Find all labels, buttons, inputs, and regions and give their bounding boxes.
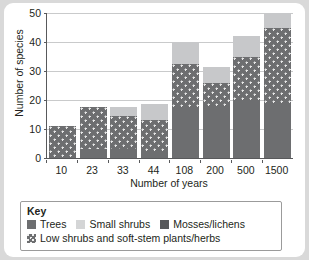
legend-row-secondary: Low shrubs and soft-stem plants/herbs [27, 232, 275, 246]
y-axis-tick-labels: 01020304050 [22, 13, 44, 161]
legend-title: Key [27, 205, 275, 218]
bar-segment-low-shrubs[interactable] [110, 116, 137, 149]
bar-segment-small-shrubs[interactable] [110, 107, 137, 116]
trees-swatch-icon [27, 220, 36, 229]
bar-segment-trees[interactable] [172, 107, 199, 158]
bar-group [47, 13, 293, 158]
bar-column[interactable] [203, 13, 230, 158]
x-axis-tick-label: 44 [140, 160, 167, 176]
bar-segment-low-shrubs[interactable] [80, 107, 107, 149]
bar-segment-low-shrubs[interactable] [203, 83, 230, 108]
bar-segment-small-shrubs[interactable] [172, 42, 199, 64]
bar-segment-low-shrubs[interactable] [233, 57, 260, 101]
legend-item-mosses-lichens: Mosses/lichens [160, 218, 245, 232]
plot-area [46, 13, 293, 159]
low-shrubs-swatch-icon [27, 234, 36, 243]
legend-label-trees: Trees [40, 218, 66, 232]
legend: Key Trees Small shrubs Mosses/lichens Lo… [20, 201, 282, 251]
bar-segment-trees[interactable] [141, 152, 168, 158]
x-axis-tick-mark [139, 160, 140, 163]
y-axis-tick-label: 30 [29, 66, 41, 77]
bar-segment-low-shrubs[interactable] [264, 28, 291, 103]
bar-segment-small-shrubs[interactable] [264, 13, 291, 28]
x-axis-title: Number of years [46, 177, 292, 189]
bar-segment-trees[interactable] [203, 107, 230, 158]
bar-column[interactable] [110, 13, 137, 158]
legend-label-small-shrubs: Small shrubs [89, 218, 150, 232]
x-axis-tick-mark [200, 160, 201, 163]
y-axis-tick-label: 20 [29, 95, 41, 106]
x-axis-tick-label: 10 [48, 160, 75, 176]
x-axis-tick-mark [262, 160, 263, 163]
bar-segment-small-shrubs[interactable] [141, 104, 168, 120]
x-axis-tick-labels: 102333441082005001500 [46, 160, 292, 176]
bar-column[interactable] [80, 13, 107, 158]
bar-segment-low-shrubs[interactable] [172, 64, 199, 108]
bar-column[interactable] [172, 13, 199, 158]
y-axis-tick-label: 40 [29, 37, 41, 48]
legend-item-low-shrubs: Low shrubs and soft-stem plants/herbs [27, 232, 220, 246]
bar-segment-low-shrubs[interactable] [49, 126, 76, 158]
y-axis-tick-label: 50 [29, 8, 41, 19]
chart-card: Number of species 01020304050 1023334410… [4, 3, 305, 257]
bar-column[interactable] [233, 13, 260, 158]
bar-column[interactable] [49, 13, 76, 158]
legend-label-low-shrubs: Low shrubs and soft-stem plants/herbs [40, 232, 220, 246]
x-axis-tick-mark [77, 160, 78, 163]
bar-segment-trees[interactable] [264, 103, 291, 158]
x-axis-tick-mark [169, 160, 170, 163]
bar-segment-low-shrubs[interactable] [141, 120, 168, 152]
legend-item-trees: Trees [27, 218, 66, 232]
mosses-lichens-swatch-icon [160, 220, 169, 229]
y-axis-tick-label: 10 [29, 124, 41, 135]
x-axis-tick-mark [46, 160, 47, 163]
bar-segment-trees[interactable] [233, 100, 260, 158]
legend-row-primary: Trees Small shrubs Mosses/lichens [27, 218, 275, 232]
x-axis-tick-label: 1500 [263, 160, 290, 176]
y-axis-tick-label: 0 [35, 153, 41, 164]
x-axis-tick-label: 23 [79, 160, 106, 176]
bar-column[interactable] [141, 13, 168, 158]
legend-label-mosses-lichens: Mosses/lichens [173, 218, 245, 232]
bar-segment-trees[interactable] [80, 149, 107, 158]
x-axis-tick-label: 500 [232, 160, 259, 176]
x-axis-tick-label: 33 [109, 160, 136, 176]
legend-item-small-shrubs: Small shrubs [76, 218, 150, 232]
bar-segment-small-shrubs[interactable] [233, 36, 260, 56]
x-axis-tick-mark [231, 160, 232, 163]
bar-segment-small-shrubs[interactable] [203, 67, 230, 83]
bar-column[interactable] [264, 13, 291, 158]
small-shrubs-swatch-icon [76, 220, 85, 229]
x-axis-tick-mark [108, 160, 109, 163]
bar-segment-trees[interactable] [110, 149, 137, 158]
plot-area-wrapper: Number of species 01020304050 1023334410… [4, 3, 305, 199]
x-axis-tick-label: 108 [171, 160, 198, 176]
x-axis-tick-label: 200 [202, 160, 229, 176]
